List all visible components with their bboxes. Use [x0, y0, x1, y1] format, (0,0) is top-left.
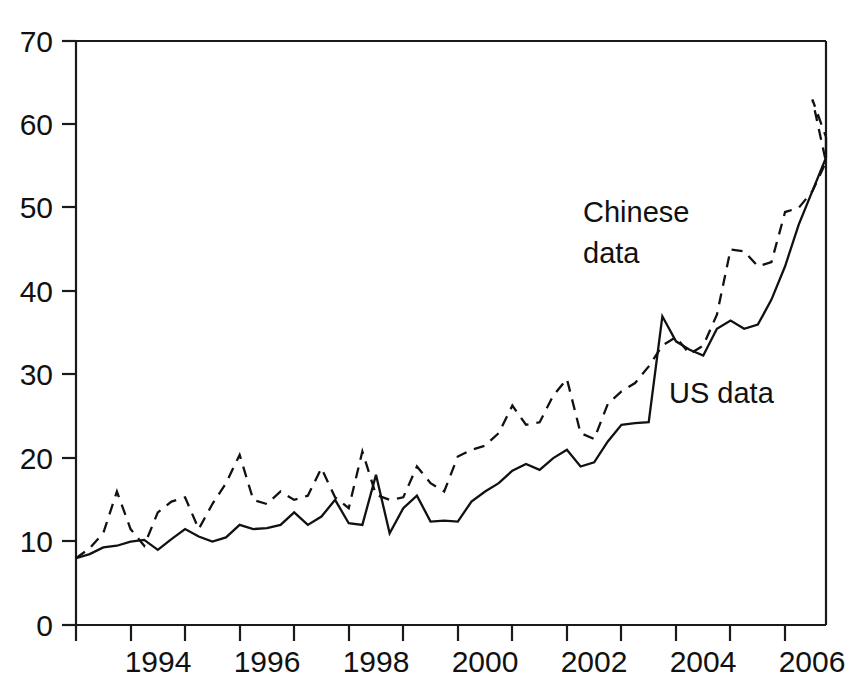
y-tick-label-60: 60 — [20, 108, 53, 141]
series-line-us-data — [76, 137, 826, 558]
y-tick-label-20: 20 — [20, 442, 53, 475]
y-tick-label-70: 70 — [20, 25, 53, 58]
x-tick-labels: 1994 1996 1998 2000 2002 2004 2006 — [125, 645, 846, 678]
y-tick-marks — [62, 41, 76, 625]
x-tick-label-2000: 2000 — [452, 645, 519, 678]
x-tick-label-1998: 1998 — [343, 645, 410, 678]
chart-canvas: 70 60 50 40 30 20 10 0 — [0, 0, 856, 700]
y-tick-label-10: 10 — [20, 525, 53, 558]
y-tick-label-30: 30 — [20, 358, 53, 391]
chinese-data-label-line1: Chinese — [583, 196, 689, 228]
line-chart: 70 60 50 40 30 20 10 0 — [0, 0, 856, 700]
x-tick-label-2006: 2006 — [779, 645, 846, 678]
x-tick-label-2004: 2004 — [670, 645, 737, 678]
series-annotations: Chinese data US data — [583, 196, 775, 409]
x-tick-label-1994: 1994 — [125, 645, 192, 678]
y-tick-label-0: 0 — [36, 609, 53, 642]
x-tick-label-2002: 2002 — [561, 645, 628, 678]
x-tick-label-1996: 1996 — [234, 645, 301, 678]
y-tick-labels: 70 60 50 40 30 20 10 0 — [20, 25, 53, 642]
us-data-label: US data — [669, 377, 775, 409]
x-tick-marks — [76, 625, 785, 641]
y-tick-label-40: 40 — [20, 275, 53, 308]
chinese-data-label-line2: data — [583, 237, 640, 269]
y-tick-label-50: 50 — [20, 191, 53, 224]
series-line-chinese-data — [76, 99, 826, 558]
